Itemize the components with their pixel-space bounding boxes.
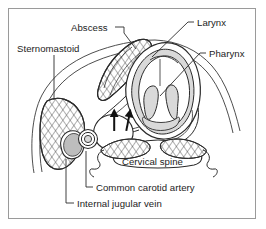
- anatomy-illustration: [0, 0, 266, 229]
- common-carotid-artery: [79, 130, 98, 149]
- label-larynx: Larynx: [197, 17, 226, 28]
- anatomy-figure: Abscess Sternomastoid Larynx Pharynx Cer…: [0, 0, 266, 229]
- label-sternomastoid: Sternomastoid: [17, 43, 80, 54]
- label-pharynx: Pharynx: [209, 48, 245, 59]
- label-abscess: Abscess: [71, 22, 108, 33]
- label-common-carotid-artery: Common carotid artery: [96, 182, 195, 193]
- label-cervical-spine: Cervical spine: [122, 156, 183, 167]
- label-internal-jugular-vein: Internal jugular vein: [77, 198, 162, 209]
